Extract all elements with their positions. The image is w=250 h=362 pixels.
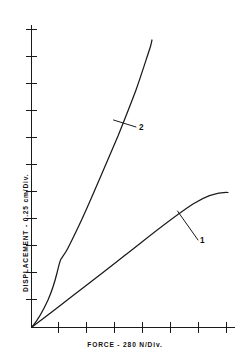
- data-curve-2: [32, 40, 152, 327]
- curve-1-leader-line: [178, 211, 199, 240]
- curve-2-label: 2: [139, 123, 144, 132]
- chart-plot-area: 2 1: [0, 0, 250, 362]
- x-axis-label: FORCE - 280 N/Div.: [0, 341, 250, 348]
- y-axis-label: DISPLACEMENT - 0.25 cm/Div.: [22, 174, 29, 292]
- curve-2-annotation: 2: [114, 120, 145, 132]
- curve-2-leader-line: [114, 120, 137, 127]
- curve-1-annotation: 1: [178, 211, 206, 245]
- y-axis-label-wrapper: DISPLACEMENT - 0.25 cm/Div.: [0, 0, 24, 330]
- figure-container: 2 1 DISPLACEMENT - 0.25 cm/Div. FORCE - …: [0, 0, 250, 362]
- data-curve-1: [32, 192, 228, 327]
- curve-1-label: 1: [200, 236, 205, 245]
- axis-group: [31, 25, 235, 328]
